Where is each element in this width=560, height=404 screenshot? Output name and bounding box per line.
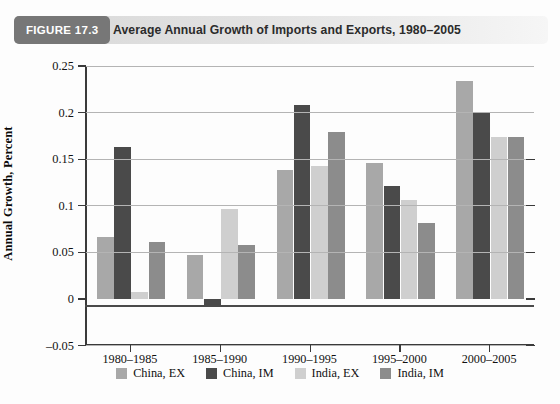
bar [97, 237, 114, 298]
y-axis-tick-label: 0.1 [59, 198, 75, 213]
x-axis-category-label: 2000–2005 [462, 352, 517, 367]
legend-swatch-icon [380, 368, 391, 379]
y-axis-tick-label: 0.05 [52, 245, 74, 260]
legend-item[interactable]: China, EX [116, 366, 185, 381]
bar [491, 137, 508, 299]
chart-legend: China, EXChina, IMIndia, EXIndia, IM [0, 366, 560, 381]
y-axis-tick [78, 298, 86, 299]
y-axis-tick [78, 345, 86, 346]
bar [418, 223, 435, 298]
bar [277, 170, 294, 299]
y-axis-tick [78, 252, 86, 253]
bar [294, 105, 311, 299]
y-axis-tick-label: 0 [68, 291, 74, 306]
legend-item[interactable]: India, EX [295, 366, 360, 381]
y-axis-tick-right [526, 159, 535, 160]
y-axis-tick-label: 0.2 [59, 105, 75, 120]
legend-label: India, IM [397, 366, 443, 381]
y-axis-tick-label: 0.15 [52, 152, 74, 167]
y-axis-tick-right [526, 252, 535, 253]
bar [131, 292, 148, 299]
y-axis-tick [78, 159, 86, 160]
x-axis-category-label: 1980–1985 [102, 352, 157, 367]
y-axis-title: Annual Growth, Percent [1, 94, 16, 294]
bar [328, 132, 345, 299]
bar [366, 163, 383, 299]
y-axis-tick-right [526, 298, 535, 299]
y-axis-tick-label: 0.25 [52, 59, 74, 74]
x-axis-tick [489, 345, 490, 352]
x-axis-tick [399, 345, 400, 352]
zero-line [85, 305, 534, 307]
legend-label: India, EX [312, 366, 360, 381]
x-axis-tick [310, 345, 311, 352]
y-axis-tick [78, 205, 86, 206]
legend-swatch-icon [295, 368, 306, 379]
y-axis-tick-label: –0.05 [46, 338, 74, 353]
x-axis-category-label: 1990–1995 [282, 352, 337, 367]
x-axis-tick [220, 345, 221, 352]
gridline [85, 112, 534, 113]
bar [384, 186, 401, 299]
bar [149, 242, 166, 299]
y-axis-tick-right [526, 205, 535, 206]
figure-container: FIGURE 17.3 Average Annual Growth of Imp… [0, 0, 560, 404]
bar [401, 200, 418, 299]
x-axis-tick [130, 345, 131, 352]
gridline [85, 252, 534, 253]
y-axis-tick [78, 65, 86, 66]
gridline [85, 205, 534, 206]
gridline [85, 159, 534, 160]
bar [508, 137, 525, 299]
x-axis-category-label: 1985–1990 [192, 352, 247, 367]
legend-swatch-icon [116, 368, 127, 379]
bar [238, 245, 255, 299]
legend-label: China, EX [133, 366, 185, 381]
x-axis-category-label: 1995–2000 [372, 352, 427, 367]
legend-label: China, IM [223, 366, 274, 381]
y-axis-tick-right [526, 345, 535, 346]
bar [187, 255, 204, 299]
gridline [85, 66, 534, 67]
bar [221, 209, 238, 299]
legend-item[interactable]: India, IM [380, 366, 443, 381]
figure-title: Average Annual Growth of Imports and Exp… [113, 16, 461, 44]
bar [311, 166, 328, 299]
legend-item[interactable]: China, IM [206, 366, 274, 381]
legend-swatch-icon [206, 368, 217, 379]
bar [456, 81, 473, 299]
bar [114, 147, 131, 299]
y-axis-tick [78, 112, 86, 113]
